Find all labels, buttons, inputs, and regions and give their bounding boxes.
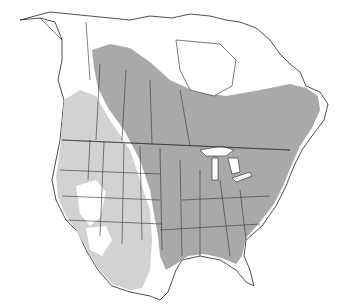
lake-michigan — [212, 158, 218, 180]
range-map — [0, 0, 345, 304]
